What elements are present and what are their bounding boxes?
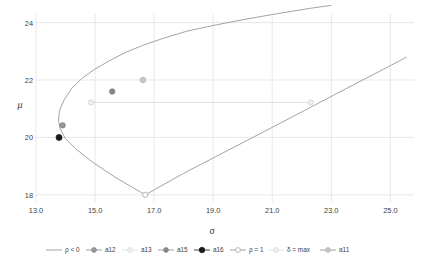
y-tick-label: 18 bbox=[25, 191, 33, 200]
data-point--1 bbox=[143, 192, 148, 197]
data-point-a13 bbox=[88, 100, 93, 105]
efficient-frontier-chart: 18202224 13.015.017.019.021.023.025.0 μ … bbox=[0, 0, 423, 261]
y-axis-title: μ bbox=[16, 99, 22, 110]
legend-marker-swatch bbox=[164, 248, 169, 253]
legend-marker-swatch bbox=[326, 248, 331, 253]
legend-label: a11 bbox=[339, 246, 350, 253]
x-tick-label: 17.0 bbox=[147, 206, 161, 215]
y-tick-label: 24 bbox=[25, 19, 33, 28]
legend-label: a12 bbox=[105, 246, 116, 253]
legend-label: a13 bbox=[141, 246, 152, 253]
legend-label: ρ < 0 bbox=[65, 246, 80, 254]
data-point-a11 bbox=[140, 77, 145, 82]
legend-marker-swatch bbox=[236, 248, 241, 253]
data-point--max bbox=[308, 100, 313, 105]
data-point-a12 bbox=[60, 123, 65, 128]
data-point-a16 bbox=[56, 134, 62, 140]
x-tick-label: 15.0 bbox=[88, 206, 102, 215]
data-point-a15 bbox=[109, 89, 114, 94]
x-tick-label: 23.0 bbox=[324, 206, 338, 215]
legend-marker-swatch bbox=[274, 248, 279, 253]
x-tick-label: 19.0 bbox=[206, 206, 220, 215]
x-tick-label: 21.0 bbox=[265, 206, 279, 215]
chart-container: 18202224 13.015.017.019.021.023.025.0 μ … bbox=[0, 0, 423, 261]
x-tick-label: 13.0 bbox=[29, 206, 43, 215]
legend-marker-swatch bbox=[128, 248, 133, 253]
legend-marker-swatch bbox=[92, 248, 97, 253]
y-tick-label: 22 bbox=[25, 76, 33, 85]
legend-marker-swatch bbox=[199, 247, 205, 253]
legend-label: a16 bbox=[213, 246, 224, 253]
legend-label: δ = max bbox=[287, 246, 311, 253]
legend-label: ρ = 1 bbox=[249, 246, 264, 254]
chart-background bbox=[0, 0, 423, 261]
legend-label: a15 bbox=[177, 246, 188, 253]
x-tick-label: 25.0 bbox=[383, 206, 397, 215]
y-tick-label: 20 bbox=[25, 133, 33, 142]
